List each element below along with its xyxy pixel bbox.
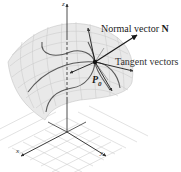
floor-grid — [0, 106, 148, 172]
surface-diagram: Normal vector N Tangent vectors P0 z x y — [0, 0, 181, 172]
surface — [8, 22, 133, 120]
x-axis-label: x — [16, 148, 19, 155]
xy-axes — [21, 132, 106, 156]
point-p0-label: P0 — [92, 75, 102, 88]
tangent-vectors-label: Tangent vectors — [115, 57, 178, 67]
y-axis-label: y — [100, 150, 103, 157]
point-p0 — [93, 60, 97, 64]
normal-vector-label: Normal vector N — [101, 24, 169, 34]
z-axis-label: z — [62, 1, 65, 8]
